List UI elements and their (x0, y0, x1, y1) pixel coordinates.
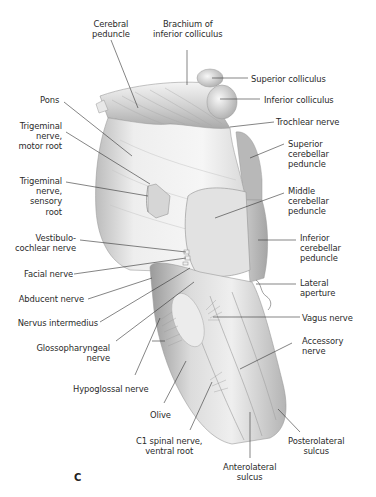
label-facial-nerve: Facial nerve (24, 269, 72, 279)
label-olive: Olive (150, 410, 171, 420)
label-trigeminal-motor-root: Trigeminal nerve, motor root (14, 121, 62, 152)
label-inferior-colliculus: Inferior colliculus (264, 95, 334, 105)
label-abducent-nerve: Abducent nerve (18, 294, 84, 304)
label-accessory-nerve: Accessory nerve (302, 336, 343, 356)
middle-cerebellar-peduncle-shape (185, 188, 250, 277)
label-vagus-nerve: Vagus nerve (302, 313, 353, 323)
label-nervus-intermedius: Nervus intermedius (16, 318, 98, 328)
panel-letter: C (74, 472, 81, 483)
label-lateral-aperture: Lateral aperture (300, 278, 335, 298)
label-cerebral-peduncle: Cerebral peduncle (92, 19, 130, 39)
label-inferior-cerebellar-peduncle: Inferior cerebellar peduncle (300, 233, 341, 264)
label-c1-spinal-nerve-ventral-root: C1 spinal nerve, ventral root (136, 436, 202, 456)
label-glossopharyngeal-nerve: Glossopharyngeal nerve (30, 343, 110, 363)
label-anterolateral-sulcus: Anterolateral sulcus (223, 462, 276, 482)
label-pons: Pons (40, 95, 59, 105)
label-superior-colliculus: Superior colliculus (251, 74, 326, 84)
label-superior-cerebellar-peduncle: Superior cerebellar peduncle (288, 139, 329, 170)
label-trigeminal-sensory-root: Trigeminal nerve, sensory root (14, 176, 62, 217)
label-vestibulocochlear-nerve: Vestibulo- cochlear nerve (10, 233, 76, 253)
brainstem-lateral-view-figure: Cerebral peduncle Brachium of inferior c… (0, 0, 376, 497)
label-brachium-inferior-colliculus: Brachium of inferior colliculus (153, 19, 222, 39)
inferior-colliculus-shape (207, 85, 237, 119)
label-middle-cerebellar-peduncle: Middle cerebellar peduncle (288, 186, 329, 217)
label-posterolateral-sulcus: Posterolateral sulcus (288, 436, 344, 456)
label-hypoglossal-nerve: Hypoglossal nerve (73, 384, 149, 394)
label-trochlear-nerve: Trochlear nerve (276, 117, 339, 127)
